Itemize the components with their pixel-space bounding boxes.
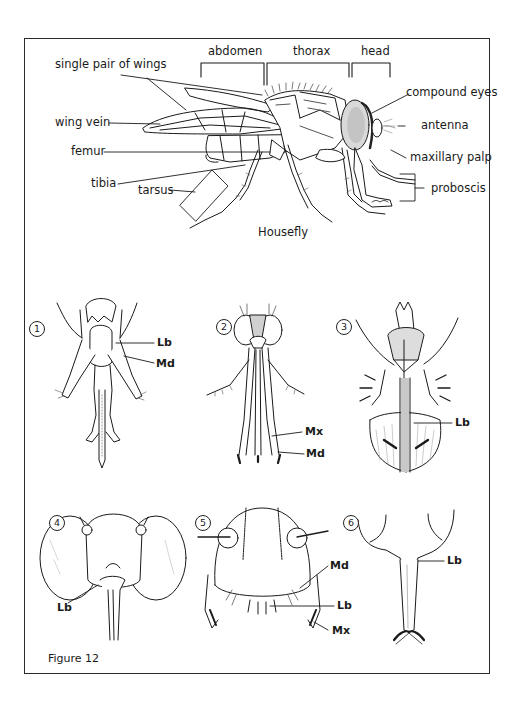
panel-4-drawing: [40, 514, 186, 640]
panel-2-label-mx: Mx: [305, 426, 323, 438]
panel-5-label-md: Md: [330, 560, 349, 572]
label-femur: femur: [71, 145, 105, 158]
panel-1-label-md: Md: [156, 358, 175, 370]
panel-6-label-lb: Lb: [447, 555, 462, 567]
panel-6-drawing: [358, 510, 454, 644]
label-housefly-title: Housefly: [258, 226, 308, 239]
panel-2-number: 2: [216, 319, 232, 335]
panel-1-number: 1: [29, 321, 45, 337]
panel-4-number: 4: [49, 515, 65, 531]
label-tibia: tibia: [91, 177, 116, 190]
label-tarsus: tarsus: [138, 184, 174, 197]
figure-caption: Figure 12: [48, 652, 99, 665]
panel-5-label-lb: Lb: [337, 600, 352, 612]
label-thorax: thorax: [293, 45, 330, 58]
panel-1-drawing: [55, 299, 154, 469]
panel-1-label-lb: Lb: [157, 337, 172, 349]
region-brackets: [201, 63, 390, 85]
panel-3-number: 3: [336, 319, 352, 335]
panel-4-label-lb: Lb: [57, 602, 72, 614]
panel-6-number: 6: [343, 515, 359, 531]
panel-3-label-lb: Lb: [455, 417, 470, 429]
label-proboscis: proboscis: [431, 182, 486, 195]
figure-artwork: [0, 0, 514, 708]
housefly-illustration: [143, 82, 415, 228]
label-compound-eyes: compound eyes: [406, 86, 497, 99]
panel-3-drawing: [356, 302, 458, 472]
panel-6-proboscis: [400, 560, 418, 632]
label-head: head: [361, 45, 390, 58]
panel-5-label-mx: Mx: [332, 625, 350, 637]
label-single-pair-of-wings: single pair of wings: [55, 58, 167, 71]
panel-5-drawing: [198, 508, 334, 630]
panel-5-number: 5: [195, 515, 211, 531]
label-abdomen: abdomen: [208, 45, 262, 58]
label-maxillary-palp: maxillary palp: [410, 151, 492, 164]
panel-2-label-md: Md: [306, 448, 325, 460]
label-antenna: antenna: [421, 119, 469, 132]
label-wing-vein: wing vein: [55, 116, 110, 129]
